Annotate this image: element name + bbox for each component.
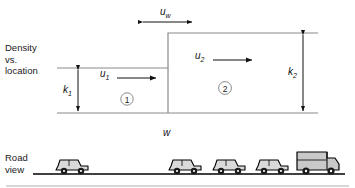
vehicle-car — [56, 160, 88, 174]
density-label-line1: Density — [5, 42, 37, 53]
w-label: w — [163, 127, 170, 138]
road-label-line1: Road — [5, 152, 28, 163]
density-label-line2: vs. — [5, 54, 17, 65]
road-line — [6, 174, 349, 186]
region-2-number: 2 — [219, 84, 231, 94]
region-1-number: 1 — [121, 95, 133, 105]
diagram-svg — [0, 0, 355, 188]
u-w-label: uw — [160, 6, 171, 19]
u-2-subscript: 2 — [201, 56, 205, 63]
road-row-label: Roadview — [5, 152, 28, 175]
vehicle-car — [213, 160, 245, 174]
vehicle-car — [169, 160, 201, 174]
figure-canvas: Densityvs.location Roadview uw u1 u2 k1 … — [0, 0, 355, 188]
vehicle-truck — [297, 152, 339, 175]
k-2-label: k2 — [288, 66, 297, 79]
density-row-label: Densityvs.location — [5, 42, 38, 77]
density-label-line3: location — [5, 65, 38, 76]
k-1-label: k1 — [63, 84, 72, 97]
vehicle-car — [256, 160, 288, 174]
density-profile-line — [57, 33, 318, 113]
u-2-label: u2 — [195, 50, 204, 63]
u-w-subscript: w — [166, 12, 171, 19]
road-label-line2: view — [5, 164, 24, 175]
u-1-label: u1 — [100, 68, 109, 81]
k-1-subscript: 1 — [68, 90, 72, 97]
k-2-subscript: 2 — [293, 72, 297, 79]
u-1-subscript: 1 — [106, 74, 110, 81]
